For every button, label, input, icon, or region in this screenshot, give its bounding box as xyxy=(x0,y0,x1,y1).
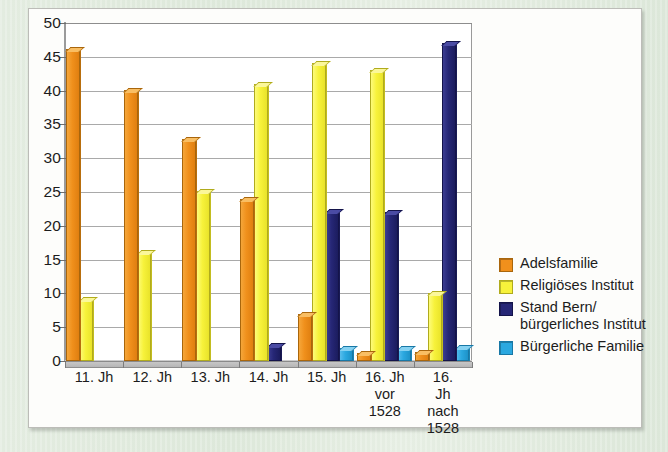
y-axis-label: 0 xyxy=(29,352,61,370)
bar-top-face xyxy=(79,297,99,302)
bar-top-face xyxy=(253,82,273,87)
y-axis-label: 25 xyxy=(29,183,61,201)
bar-front-face xyxy=(66,49,80,361)
bar xyxy=(196,193,208,361)
x-axis-tick xyxy=(65,362,66,368)
legend-item: Religiöses Institut xyxy=(499,277,668,294)
x-axis-label: 16. Jh nach 1528 xyxy=(427,369,459,437)
y-axis-label: 35 xyxy=(29,115,61,133)
bar xyxy=(384,214,396,361)
bar-group xyxy=(124,23,177,361)
bar-top-face xyxy=(441,41,461,46)
x-axis-tick xyxy=(298,362,299,368)
bar-groups xyxy=(65,23,472,361)
legend-swatch-icon xyxy=(499,280,513,294)
bar xyxy=(357,355,369,361)
bar-top-face xyxy=(266,343,286,348)
gridline xyxy=(65,361,472,362)
bar-top-face xyxy=(181,137,201,142)
x-axis-label: 15. Jh xyxy=(307,369,347,386)
bar-group xyxy=(66,23,119,361)
bar-front-face xyxy=(312,63,326,361)
x-axis-tick xyxy=(356,362,357,368)
bar xyxy=(298,316,310,361)
x-axis-labels: 11. Jh12. Jh13. Jh14. Jh15. Jh16. Jh vor… xyxy=(65,369,472,429)
bar-front-face xyxy=(384,212,398,361)
x-axis-tick xyxy=(239,362,240,368)
legend-item: Adelsfamilie xyxy=(499,255,668,272)
bar-group xyxy=(415,23,468,361)
bar-group xyxy=(298,23,351,361)
x-axis-tick xyxy=(181,362,182,368)
y-axis-label: 45 xyxy=(29,48,61,66)
bar-front-face xyxy=(325,211,339,361)
x-axis-label: 13. Jh xyxy=(191,369,231,386)
y-axis-label: 15 xyxy=(29,251,61,269)
bar-front-face xyxy=(182,139,196,361)
bar xyxy=(79,301,91,361)
bar xyxy=(137,254,149,361)
bar-front-face xyxy=(196,191,210,361)
bar-front-face xyxy=(137,252,151,361)
x-axis-label: 12. Jh xyxy=(132,369,172,386)
legend-item: Bürgerliche Familie xyxy=(499,338,668,355)
x-axis-tick xyxy=(414,362,415,368)
chart-card: 05101520253035404550 11. Jh12. Jh13. Jh1… xyxy=(28,8,642,428)
legend-label: Bürgerliche Familie xyxy=(520,338,644,355)
bar-top-face xyxy=(396,346,416,351)
x-axis-tick xyxy=(472,362,473,368)
bar-top-face xyxy=(311,61,331,66)
bar-group xyxy=(357,23,410,361)
bar xyxy=(325,213,337,361)
y-axis-label: 20 xyxy=(29,217,61,235)
y-axis-label: 30 xyxy=(29,149,61,167)
bar-front-face xyxy=(240,199,254,361)
bar xyxy=(370,72,382,361)
bar xyxy=(267,347,279,361)
bar xyxy=(254,86,266,361)
legend-label: Adelsfamilie xyxy=(520,255,598,272)
bar xyxy=(124,92,136,361)
bar xyxy=(442,45,454,361)
plot-area xyxy=(65,23,472,361)
y-axis-label: 10 xyxy=(29,284,61,302)
legend-label: Religiöses Institut xyxy=(520,277,634,294)
bar-top-face xyxy=(195,189,215,194)
y-axis-label: 40 xyxy=(29,82,61,100)
legend-swatch-icon xyxy=(499,302,513,316)
bar xyxy=(240,201,252,361)
bar-front-face xyxy=(298,314,312,361)
bar-front-face xyxy=(79,299,93,361)
bar xyxy=(66,51,78,361)
bar-top-face xyxy=(65,47,85,52)
bar-front-face xyxy=(370,70,384,361)
legend-swatch-icon xyxy=(499,341,513,355)
bar-front-face xyxy=(442,43,456,361)
chart-screenshot: 05101520253035404550 11. Jh12. Jh13. Jh1… xyxy=(0,0,668,452)
bar-top-face xyxy=(369,68,389,73)
bar-top-face xyxy=(137,250,157,255)
bar-top-face xyxy=(123,88,143,93)
bar xyxy=(415,354,427,361)
bar xyxy=(182,141,194,361)
bar-front-face xyxy=(124,90,138,361)
legend-item: Stand Bern/ bürgerliches Institut xyxy=(499,299,668,333)
legend-swatch-icon xyxy=(499,258,513,272)
bar xyxy=(312,65,324,361)
y-axis-label: 50 xyxy=(29,14,61,32)
bar-top-face xyxy=(338,346,358,351)
chart-legend: AdelsfamilieReligiöses InstitutStand Ber… xyxy=(499,255,668,360)
y-axis-label: 5 xyxy=(29,318,61,336)
bar-top-face xyxy=(383,210,403,215)
bar xyxy=(339,350,351,361)
x-axis-label: 11. Jh xyxy=(75,369,113,386)
bar-group xyxy=(240,23,293,361)
x-axis-label: 16. Jh vor 1528 xyxy=(365,369,405,420)
bar-top-face xyxy=(325,209,345,214)
bar-front-face xyxy=(254,84,268,361)
x-axis-label: 14. Jh xyxy=(249,369,289,386)
bar xyxy=(397,350,409,361)
x-axis-tick xyxy=(123,362,124,368)
bar-top-face xyxy=(454,345,474,350)
legend-label: Stand Bern/ bürgerliches Institut xyxy=(520,299,646,333)
